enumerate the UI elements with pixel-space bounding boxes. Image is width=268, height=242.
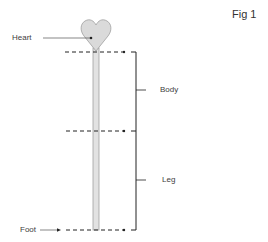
stem xyxy=(93,48,99,230)
foot-label: Foot xyxy=(20,225,36,235)
body-bracket xyxy=(131,52,136,131)
heart-label: Heart xyxy=(12,33,32,43)
foot-arrow-head xyxy=(57,228,61,231)
foot-dashed-dot xyxy=(123,229,125,231)
heart-pointer-dot xyxy=(90,37,93,40)
body-label: Body xyxy=(160,85,178,95)
mid-dashed-dot xyxy=(123,130,125,132)
heart-icon xyxy=(81,20,111,51)
diagram-canvas xyxy=(0,0,268,242)
top-dashed-dot xyxy=(123,51,125,53)
leg-label: Leg xyxy=(162,175,175,185)
leg-bracket xyxy=(131,131,136,230)
